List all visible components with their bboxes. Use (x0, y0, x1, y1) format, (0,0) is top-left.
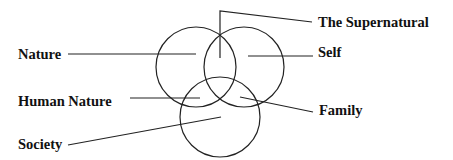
family-leader-line (240, 97, 313, 112)
label-family: Family (319, 102, 363, 118)
label-supernatural: The Supernatural (318, 14, 429, 30)
venn-svg: The Supernatural Nature Self Human Natur… (0, 0, 453, 160)
self-circle (204, 27, 284, 107)
nature-circle (156, 27, 236, 107)
venn-diagram: The Supernatural Nature Self Human Natur… (0, 0, 453, 160)
label-self: Self (318, 44, 342, 60)
label-society: Society (18, 136, 63, 152)
supernatural-leader-line (220, 11, 312, 58)
society-leader-line (68, 117, 221, 145)
label-human-nature: Human Nature (18, 93, 112, 109)
label-nature: Nature (18, 46, 62, 62)
